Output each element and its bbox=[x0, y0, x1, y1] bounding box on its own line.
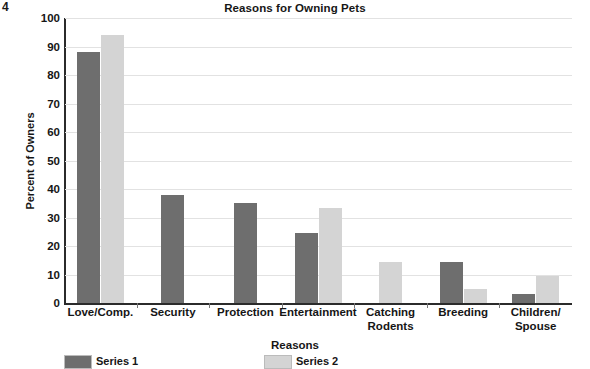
x-axis-label: Reasons bbox=[0, 339, 590, 351]
x-category-label: Children/ Spouse bbox=[490, 306, 581, 333]
y-tick-label: 20 bbox=[26, 240, 60, 252]
legend-label: Series 1 bbox=[96, 355, 138, 367]
gridline bbox=[65, 18, 572, 19]
chart-legend: Series 1Series 2 bbox=[64, 355, 464, 363]
bar bbox=[536, 276, 559, 303]
x-axis-line bbox=[64, 303, 572, 305]
bar bbox=[101, 35, 124, 303]
y-tick-label: 30 bbox=[26, 212, 60, 224]
y-tick-label: 80 bbox=[26, 69, 60, 81]
bar bbox=[512, 294, 535, 303]
gridline bbox=[65, 47, 572, 48]
bar bbox=[319, 208, 342, 303]
y-tick-label: 10 bbox=[26, 269, 60, 281]
gridline bbox=[65, 132, 572, 133]
bar bbox=[295, 233, 318, 303]
y-tick-label: 40 bbox=[26, 183, 60, 195]
y-axis-tick-labels: 1009080706050403020100 bbox=[22, 18, 60, 303]
gridline bbox=[65, 75, 572, 76]
bar bbox=[77, 52, 100, 303]
legend-swatch bbox=[64, 355, 92, 369]
y-tick-label: 70 bbox=[26, 98, 60, 110]
bar bbox=[161, 195, 184, 303]
gridline bbox=[65, 161, 572, 162]
chart-title: Reasons for Owning Pets bbox=[0, 2, 590, 14]
gridline bbox=[65, 189, 572, 190]
bar bbox=[464, 289, 487, 303]
bar bbox=[234, 203, 257, 303]
y-tick-label: 100 bbox=[26, 12, 60, 24]
legend-swatch bbox=[264, 355, 292, 369]
legend-label: Series 2 bbox=[296, 355, 338, 367]
bar bbox=[440, 262, 463, 303]
y-tick-label: 90 bbox=[26, 41, 60, 53]
bar bbox=[379, 262, 402, 303]
gridline bbox=[65, 104, 572, 105]
y-tick-label: 60 bbox=[26, 126, 60, 138]
plot-area bbox=[64, 18, 572, 303]
y-tick-label: 50 bbox=[26, 155, 60, 167]
